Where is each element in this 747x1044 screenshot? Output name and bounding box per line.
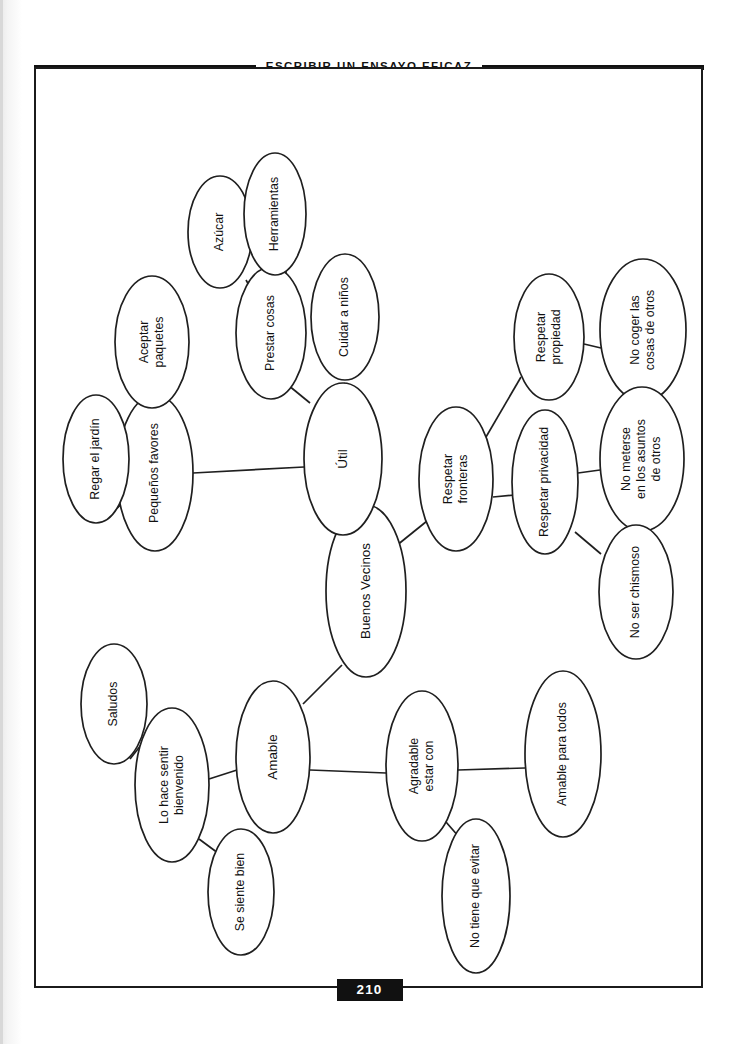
concept-map: Buenos VecinosÚtilPrestar cosasAzúcarHer…	[34, 67, 703, 988]
concept-node: Prestar cosas	[236, 267, 306, 399]
concept-node-label: No ser chismoso	[628, 546, 642, 638]
concept-node: Herramientas	[244, 153, 306, 275]
concept-map-edge	[303, 665, 342, 704]
concept-node-label: Pequeños favores	[147, 423, 161, 523]
concept-node: Agradableestar con	[386, 691, 458, 841]
concept-map-edge	[486, 377, 521, 437]
concept-map-edge	[193, 467, 304, 473]
concept-node: Respetarfronteras	[419, 407, 493, 551]
concept-node-label: Azúcar	[212, 213, 226, 252]
concept-node: No ser chismoso	[599, 525, 673, 659]
concept-node: Respetarpropiedad	[514, 274, 584, 400]
concept-node-label: Agradableestar con	[407, 738, 436, 795]
concept-node-label: Aceptarpaquetes	[137, 317, 166, 368]
concept-map-edge	[584, 344, 601, 348]
concept-node-label: Respetar privacidad	[537, 427, 551, 537]
scan-edge-shadow	[0, 0, 22, 1044]
concept-node-label: Lo hace sentirbienvenido	[157, 746, 186, 824]
concept-node: No coger lascosas de otros	[600, 259, 686, 401]
concept-node-label: Saludos	[106, 682, 120, 727]
concept-node: Lo hace sentirbienvenido	[135, 708, 209, 862]
concept-node: Amable	[236, 681, 310, 833]
concept-node-label: Se siente bien	[233, 853, 247, 932]
book-page: ESCRIBIR UN ENSAYO EFICAZ Buenos Vecinos…	[0, 0, 747, 1044]
concept-map-nodes: Buenos VecinosÚtilPrestar cosasAzúcarHer…	[63, 153, 686, 973]
scan-edge-line	[0, 0, 3, 1044]
concept-node: Saludos	[81, 644, 147, 764]
concept-node: No tiene que evitar	[442, 819, 510, 973]
concept-node: Regar el jardín	[63, 395, 129, 523]
concept-map-edge	[458, 768, 525, 770]
concept-node-label: Buenos Vecinos	[358, 543, 373, 639]
concept-node-label: Amable para todos	[555, 702, 569, 806]
concept-node: Se siente bien	[208, 829, 274, 955]
concept-node-label: No tiene que evitar	[468, 844, 482, 948]
page-number-badge: 210	[337, 979, 403, 1001]
concept-node-label: Herramientas	[267, 177, 281, 251]
concept-node-label: No coger lascosas de otros	[628, 290, 657, 371]
concept-node-label: Útil	[335, 449, 350, 468]
concept-map-edge	[209, 770, 237, 779]
concept-node: Útil	[304, 383, 382, 535]
concept-node: Respetar privacidad	[512, 410, 578, 554]
concept-node-label: Amable	[265, 734, 280, 779]
concept-node-label: Respetarfronteras	[441, 454, 470, 504]
concept-node-label: Respetarpropiedad	[534, 309, 563, 364]
concept-node: Aceptarpaquetes	[115, 276, 189, 408]
concept-map-edge	[310, 770, 386, 773]
concept-node: Amable para todos	[525, 671, 601, 837]
concept-node-label: Cuidar a niños	[337, 277, 351, 357]
concept-node-label: Prestar cosas	[263, 295, 277, 371]
concept-node-label: Regar el jardín	[88, 418, 102, 499]
concept-map-canvas: Buenos VecinosÚtilPrestar cosasAzúcarHer…	[34, 67, 703, 988]
concept-map-edge	[578, 470, 600, 473]
concept-node: Cuidar a niños	[311, 254, 379, 380]
page-footer: 210	[34, 979, 705, 1001]
concept-node: Azúcar	[188, 176, 252, 288]
concept-node: No meterseen los asuntosde otros	[600, 387, 684, 531]
concept-map-edge	[575, 532, 601, 554]
